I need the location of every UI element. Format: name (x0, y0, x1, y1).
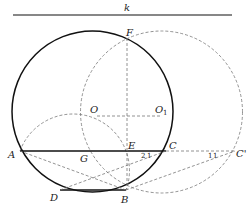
label-o1: O (155, 104, 163, 115)
label-e: E (127, 140, 136, 151)
angle-label-cp-1a: 1 (208, 152, 212, 160)
label-a: A (7, 149, 15, 160)
diagram-canvas: k F O O 1 A G E C C' D B 2 1 1 1 (0, 0, 250, 221)
angle-label-c-2: 2 (141, 152, 145, 160)
geometry-diagram: k F O O 1 A G E C C' D B 2 1 1 1 (0, 0, 250, 221)
label-k: k (124, 2, 130, 13)
arc-ab (20, 114, 129, 190)
label-g: G (80, 153, 88, 164)
label-d: D (49, 192, 58, 203)
segment-ab (20, 151, 126, 190)
label-c-prime: C' (236, 148, 246, 159)
label-b: B (120, 194, 128, 205)
label-o: O (90, 104, 98, 115)
label-c: C (169, 140, 177, 151)
angle-label-c-1: 1 (147, 152, 151, 160)
angle-label-cp-1b: 1 (213, 152, 217, 160)
label-f: F (125, 27, 134, 38)
label-o1-sub: 1 (163, 109, 167, 117)
